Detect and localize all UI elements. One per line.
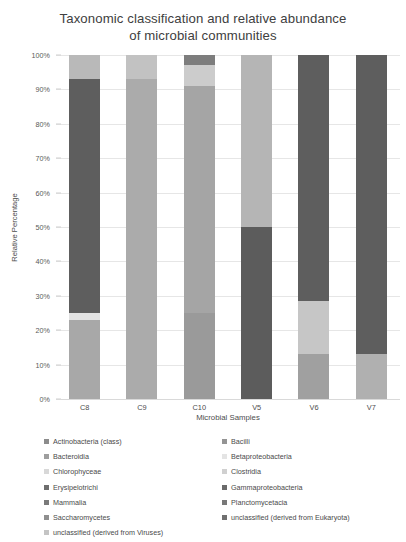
legend-swatch-icon bbox=[222, 485, 227, 490]
legend-swatch-icon bbox=[44, 500, 49, 505]
x-axis-tick-label: C10 bbox=[193, 403, 207, 412]
legend-swatch-icon bbox=[44, 515, 49, 520]
bar-segment[interactable] bbox=[298, 354, 329, 399]
y-axis-tick-label: 10% bbox=[10, 360, 50, 369]
x-axis-tick-label: V5 bbox=[252, 403, 261, 412]
bar-segment[interactable] bbox=[184, 55, 215, 65]
legend-swatch-icon bbox=[222, 439, 227, 444]
legend-label: Planctomycetacia bbox=[231, 499, 287, 506]
legend-item[interactable]: Bacilli bbox=[222, 434, 406, 449]
x-axis-tick-label: V7 bbox=[367, 403, 376, 412]
legend-label: Actinobacteria (class) bbox=[53, 438, 122, 445]
plot-area: 0%10%20%30%40%50%60%70%80%90%100% C8C9C1… bbox=[56, 55, 400, 399]
legend-swatch-icon bbox=[222, 454, 227, 459]
legend-column-2: BacilliBetaproteobacteriaClostridiaGamma… bbox=[222, 434, 406, 525]
x-axis-line bbox=[56, 399, 400, 400]
legend-label: Erysipelotrichi bbox=[53, 484, 98, 491]
y-axis-tick-label: 90% bbox=[10, 85, 50, 94]
y-axis-tick-label: 30% bbox=[10, 291, 50, 300]
legend-item[interactable]: Gammaproteobacteria bbox=[222, 480, 406, 495]
chart-title-line-1: Taxonomic classification and relative ab… bbox=[0, 10, 406, 27]
bar-segment[interactable] bbox=[126, 375, 157, 399]
legend-label: Clostridia bbox=[231, 468, 261, 475]
legend-column-1: Actinobacteria (class)BacteroidiaChlorop… bbox=[44, 434, 224, 540]
legend-item[interactable]: Actinobacteria (class) bbox=[44, 434, 224, 449]
bar-segment[interactable] bbox=[356, 354, 387, 399]
bar-segment[interactable] bbox=[69, 55, 100, 79]
y-axis-tick-label: 80% bbox=[10, 119, 50, 128]
bar-segment[interactable] bbox=[298, 55, 329, 301]
chart-title: Taxonomic classification and relative ab… bbox=[0, 10, 406, 44]
legend-item[interactable]: Bacteroidia bbox=[44, 449, 224, 464]
legend-swatch-icon bbox=[222, 515, 227, 520]
legend-item[interactable]: Chlorophyceae bbox=[44, 464, 224, 479]
legend-swatch-icon bbox=[44, 439, 49, 444]
bar-segment[interactable] bbox=[69, 79, 100, 313]
stacked-bar[interactable] bbox=[298, 55, 329, 399]
bar-column[interactable]: V7 bbox=[343, 55, 400, 399]
stacked-bar[interactable] bbox=[356, 55, 387, 399]
bar-segment[interactable] bbox=[184, 65, 215, 86]
legend-item[interactable]: unclassified (derived from Viruses) bbox=[44, 525, 224, 540]
legend-item[interactable]: Betaproteobacteria bbox=[222, 449, 406, 464]
legend-label: Bacteroidia bbox=[53, 453, 89, 460]
x-axis-tick-label: C9 bbox=[137, 403, 146, 412]
x-axis-tick-label: V6 bbox=[309, 403, 318, 412]
y-axis-tick-label: 50% bbox=[10, 223, 50, 232]
legend-item[interactable]: Planctomycetacia bbox=[222, 495, 406, 510]
bar-column[interactable]: C10 bbox=[171, 55, 228, 399]
bar-segment[interactable] bbox=[126, 79, 157, 375]
legend-label: Saccharomycetes bbox=[53, 514, 110, 521]
legend-swatch-icon bbox=[222, 469, 227, 474]
legend-item[interactable]: Saccharomycetes bbox=[44, 510, 224, 525]
chart-title-line-2: of microbial communities bbox=[0, 27, 406, 44]
legend-item[interactable]: Mammalia bbox=[44, 495, 224, 510]
y-axis-tick-label: 100% bbox=[10, 51, 50, 60]
bar-column[interactable]: C8 bbox=[56, 55, 113, 399]
legend-label: Mammalia bbox=[53, 499, 86, 506]
x-axis-tick-label: C8 bbox=[80, 403, 89, 412]
legend-swatch-icon bbox=[44, 454, 49, 459]
legend-swatch-icon bbox=[222, 500, 227, 505]
stacked-bar[interactable] bbox=[241, 55, 272, 399]
bar-segment[interactable] bbox=[184, 86, 215, 313]
bar-segment[interactable] bbox=[126, 55, 157, 79]
stacked-bar[interactable] bbox=[184, 55, 215, 399]
x-axis-title: Microbial Samples bbox=[56, 413, 400, 422]
stacked-bar[interactable] bbox=[126, 55, 157, 399]
y-axis-tick-label: 70% bbox=[10, 154, 50, 163]
legend-swatch-icon bbox=[44, 485, 49, 490]
legend-item[interactable]: Clostridia bbox=[222, 464, 406, 479]
legend-swatch-icon bbox=[44, 530, 49, 535]
bar-column[interactable]: C9 bbox=[113, 55, 170, 399]
bar-segment[interactable] bbox=[69, 320, 100, 399]
bar-segment[interactable] bbox=[241, 55, 272, 227]
y-axis-tick-label: 60% bbox=[10, 188, 50, 197]
bar-segment[interactable] bbox=[356, 55, 387, 354]
legend-label: unclassified (derived from Eukaryota) bbox=[231, 514, 350, 521]
y-axis-tick-label: 20% bbox=[10, 326, 50, 335]
bar-series-group: C8C9C10V5V6V7 bbox=[56, 55, 400, 399]
legend-label: Chlorophyceae bbox=[53, 468, 101, 475]
y-axis-tick-label: 40% bbox=[10, 257, 50, 266]
legend-item[interactable]: unclassified (derived from Eukaryota) bbox=[222, 510, 406, 525]
legend-swatch-icon bbox=[44, 469, 49, 474]
bar-column[interactable]: V5 bbox=[228, 55, 285, 399]
bar-segment[interactable] bbox=[184, 313, 215, 399]
legend-label: Gammaproteobacteria bbox=[231, 484, 303, 491]
stacked-bar[interactable] bbox=[69, 55, 100, 399]
legend-label: Bacilli bbox=[231, 438, 250, 445]
bar-segment[interactable] bbox=[298, 301, 329, 354]
chart-container: Taxonomic classification and relative ab… bbox=[0, 0, 406, 542]
legend-label: Betaproteobacteria bbox=[231, 453, 292, 460]
bar-column[interactable]: V6 bbox=[285, 55, 342, 399]
bar-segment[interactable] bbox=[69, 313, 100, 320]
bar-segment[interactable] bbox=[241, 227, 272, 399]
legend-item[interactable]: Erysipelotrichi bbox=[44, 480, 224, 495]
legend-label: unclassified (derived from Viruses) bbox=[53, 529, 163, 536]
y-axis-tick-label: 0% bbox=[10, 395, 50, 404]
